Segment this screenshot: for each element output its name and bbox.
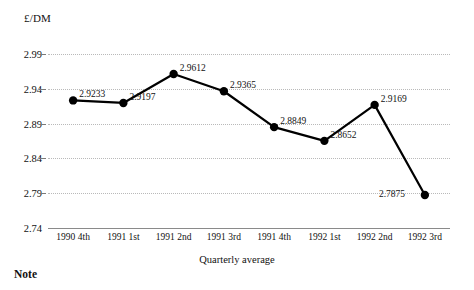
data-point-marker (270, 123, 278, 131)
data-point-value-label: 2.7875 (379, 189, 405, 199)
y-axis-tick-mark (39, 89, 46, 90)
data-point-value-label: 2.8652 (330, 130, 356, 140)
data-point-marker (119, 99, 127, 107)
x-axis-tick-label: 1991 2nd (156, 232, 192, 242)
data-point-marker (69, 96, 77, 104)
y-axis-unit-label: £/DM (24, 12, 51, 24)
y-axis-tick-labels: 2.992.942.892.842.792.74 (0, 54, 42, 228)
x-axis-title: Quarterly average (0, 254, 474, 265)
x-axis-tick-label: 1991 1st (107, 232, 139, 242)
x-axis-line (48, 228, 450, 229)
exchange-rate-line-chart: £/DM 2.992.942.892.842.792.74 2.92332.91… (0, 0, 474, 290)
data-point-value-label: 2.9169 (381, 94, 407, 104)
x-axis-tick-label: 1991 4th (257, 232, 291, 242)
x-axis-tick-label: 1991 3rd (207, 232, 241, 242)
y-axis-tick-mark (39, 193, 46, 194)
x-axis-tick-label: 1992 1st (308, 232, 340, 242)
data-point-marker (169, 70, 177, 78)
x-axis-tick-label: 1992 2nd (357, 232, 393, 242)
y-axis-tick-mark (39, 158, 46, 159)
data-point-marker (370, 101, 378, 109)
data-point-value-label: 2.9612 (180, 63, 206, 73)
x-axis-tick-label: 1990 4th (56, 232, 90, 242)
data-point-marker (421, 191, 429, 199)
note-heading: Note (14, 268, 37, 280)
plot-area: 2.92332.91972.96122.93652.88492.86522.91… (48, 54, 450, 228)
data-point-value-label: 2.9365 (230, 80, 256, 90)
data-point-marker (220, 87, 228, 95)
y-axis-tick-mark (39, 124, 46, 125)
x-axis-tick-labels: 1990 4th1991 1st1991 2nd1991 3rd1991 4th… (0, 232, 474, 248)
data-point-value-label: 2.9233 (79, 89, 105, 99)
data-point-value-label: 2.8849 (280, 116, 306, 126)
y-axis-tick-mark (39, 54, 46, 55)
data-point-value-label: 2.9197 (129, 92, 155, 102)
data-point-marker (320, 137, 328, 145)
x-axis-tick-label: 1992 3rd (408, 232, 442, 242)
